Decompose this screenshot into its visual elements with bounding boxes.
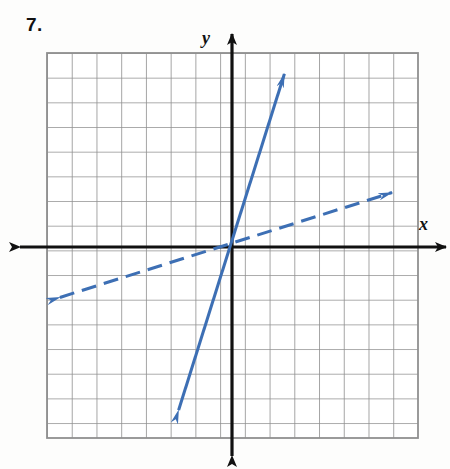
y-axis-label: y xyxy=(202,29,210,47)
x-axis-label: x xyxy=(419,215,428,233)
worksheet-figure: 7. xyxy=(0,0,450,469)
coordinate-plane-graphic xyxy=(0,0,450,469)
